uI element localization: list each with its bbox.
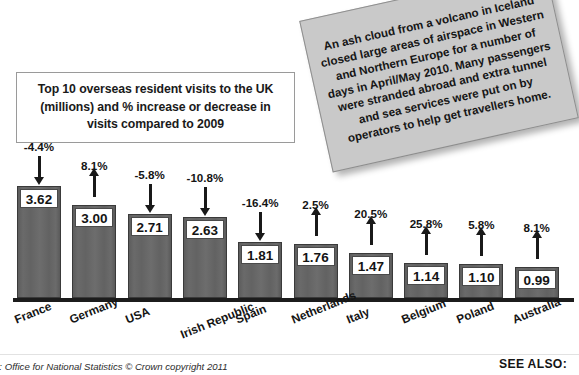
percent-change-label: -10.8% [172, 171, 238, 184]
bar-value-label: 1.81 [241, 245, 279, 264]
percent-change-label: -4.4% [6, 140, 72, 153]
bar-value-label: 3.00 [75, 208, 113, 227]
arrow-up-icon [425, 233, 428, 255]
callout-panel: An ash cloud from a volcano in Iceland c… [299, 0, 579, 172]
arrow-down-icon [259, 212, 262, 234]
arrow-up-icon [93, 175, 96, 197]
category-label: Italy [344, 305, 371, 327]
bar-value-label: 3.62 [20, 189, 58, 208]
see-also-label: SEE ALSO: [499, 357, 567, 371]
callout-text: An ash cloud from a volcano in Iceland c… [315, 0, 564, 149]
category-label: France [12, 299, 53, 326]
ash-cloud-callout: An ash cloud from a volcano in Iceland c… [299, 0, 579, 172]
bar-value-label: 1.76 [297, 247, 335, 266]
arrow-down-icon [38, 156, 41, 178]
bar-value-label: 1.47 [352, 256, 390, 275]
bar-value-label: 0.99 [518, 270, 556, 289]
arrow-up-icon [370, 223, 373, 245]
bar-chart: 3.62-4.4%3.008.1%2.71-5.8%2.63-10.8%1.81… [0, 150, 579, 310]
bar-value-label: 1.10 [462, 267, 500, 286]
arrow-up-icon [536, 237, 539, 259]
chart-title-box: Top 10 overseas resident visits to the U… [16, 72, 295, 143]
arrow-down-icon [149, 184, 152, 206]
bar-value-label: 1.14 [407, 266, 445, 285]
bar-value-label: 2.71 [131, 217, 169, 236]
arrow-up-icon [480, 234, 483, 256]
bar-value-label: 2.63 [186, 220, 224, 239]
footer-divider [0, 354, 579, 355]
category-label: Poland [455, 299, 497, 327]
chart-title-text: Top 10 overseas resident visits to the U… [25, 81, 286, 134]
arrow-down-icon [204, 187, 207, 209]
source-note: e: Office for National Statistics © Crow… [0, 361, 228, 372]
arrow-up-icon [315, 214, 318, 236]
category-label: USA [123, 304, 151, 326]
percent-change-label: 8.1% [504, 221, 570, 234]
